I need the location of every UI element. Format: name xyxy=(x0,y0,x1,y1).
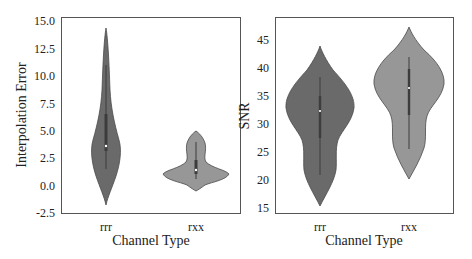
median-rrr-snr xyxy=(319,110,321,112)
ytick-label: 45 xyxy=(257,33,269,47)
xtick-label-rrr: rrr xyxy=(100,220,112,234)
y-axis-label: Interpolation Error xyxy=(14,62,29,168)
ytick-label: 7.5 xyxy=(40,97,55,111)
axes-frame-interp xyxy=(62,18,241,214)
ytick-label: 35 xyxy=(257,89,269,103)
xtick-label-rrr: rrr xyxy=(314,220,326,234)
median-rxx-interp xyxy=(195,169,197,171)
x-axis-label: Channel Type xyxy=(112,233,190,248)
ytick-label: 0.0 xyxy=(40,179,55,193)
figure: -2.5 0.0 2.5 5.0 7.5 10.0 12.5 15.0 rrr … xyxy=(0,0,472,259)
subplot-snr: 15 20 25 30 35 40 45 rrr rxx Channel Typ… xyxy=(237,18,454,249)
ytick-label: 40 xyxy=(257,61,269,75)
ytick-label: 25 xyxy=(257,145,269,159)
iqr-box-rxx-interp xyxy=(195,160,198,174)
subplot-interpolation-error: -2.5 0.0 2.5 5.0 7.5 10.0 12.5 15.0 rrr … xyxy=(14,14,241,248)
y-ticks-snr: 15 20 25 30 35 40 45 xyxy=(257,33,269,215)
ytick-label: 5.0 xyxy=(40,124,55,138)
median-rrr-interp xyxy=(105,145,107,147)
iqr-box-rrr-snr xyxy=(319,96,321,138)
ytick-label: 10.0 xyxy=(34,69,55,83)
ytick-label: -2.5 xyxy=(36,206,55,220)
ytick-label: 15.0 xyxy=(34,14,55,28)
ytick-label: 20 xyxy=(257,173,269,187)
xtick-label-rxx: rxx xyxy=(401,220,417,234)
ytick-label: 15 xyxy=(257,201,269,215)
iqr-box-rxx-snr xyxy=(408,69,410,115)
y-ticks-interp: -2.5 0.0 2.5 5.0 7.5 10.0 12.5 15.0 xyxy=(34,14,55,220)
ytick-label: 12.5 xyxy=(34,42,55,56)
ytick-label: 2.5 xyxy=(40,151,55,165)
x-axis-label: Channel Type xyxy=(325,233,403,248)
ytick-label: 30 xyxy=(257,117,269,131)
median-rxx-snr xyxy=(408,87,410,89)
y-axis-label: SNR xyxy=(237,102,252,130)
xtick-label-rxx: rxx xyxy=(188,220,204,234)
